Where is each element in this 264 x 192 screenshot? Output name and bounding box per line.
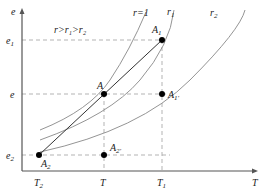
tick-T2: T2 <box>34 177 44 190</box>
point-A1-prime <box>159 91 165 97</box>
label-A1: A1 <box>151 24 162 37</box>
label-r1: r1 <box>167 6 174 19</box>
label-A2: A2 <box>40 158 51 171</box>
line-A2-A1 <box>39 40 162 155</box>
thermo-diagram: e T e1 e e2 T2 T T1 r>r₁>r₂ r=1 r1 r2 A1… <box>0 0 264 192</box>
point-A2-prime <box>101 152 107 158</box>
tick-T: T <box>100 177 107 188</box>
label-r2: r2 <box>210 7 218 20</box>
x-axis-label: T <box>252 177 259 188</box>
label-A2-prime: A2' <box>109 142 122 155</box>
point-A <box>101 91 107 97</box>
y-axis-arrow-icon <box>20 8 25 14</box>
label-r-equals-1: r=1 <box>133 7 149 18</box>
point-A1 <box>159 37 165 43</box>
x-axis-arrow-icon <box>252 169 258 174</box>
y-axis-label: e <box>11 6 16 17</box>
tick-e2: e2 <box>6 150 14 163</box>
ratio-annotation: r>r₁>r₂ <box>54 24 87 35</box>
tick-e1: e1 <box>6 35 14 48</box>
tick-T1: T1 <box>157 177 166 190</box>
label-A: A <box>96 80 104 91</box>
tick-e: e <box>10 89 15 100</box>
